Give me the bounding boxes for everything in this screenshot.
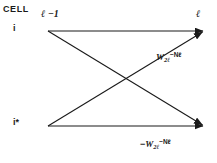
weight-positive-label: W2ℓ−Nℓ [156,52,182,63]
butterfly-diagram-page: CELL i i* ℓ −1 ℓ W2ℓ−Nℓ −W2ℓ−Nℓ [0,0,217,163]
node-label-upper: i [13,24,16,33]
weight-positive-base: W [156,52,164,62]
edge-cross-up [48,32,203,126]
node-label-lower: i* [13,118,19,127]
weight-negative-exponent: −Nℓ [159,138,171,145]
time-index-previous-label: ℓ −1 [41,9,59,19]
butterfly-graph [0,0,217,163]
cell-title-label: CELL [3,5,29,14]
time-index-current-label: ℓ [196,9,200,19]
weight-negative-label: −W2ℓ−Nℓ [140,139,171,150]
weight-positive-exponent: −Nℓ [170,51,182,58]
edge-cross-down [48,31,203,125]
